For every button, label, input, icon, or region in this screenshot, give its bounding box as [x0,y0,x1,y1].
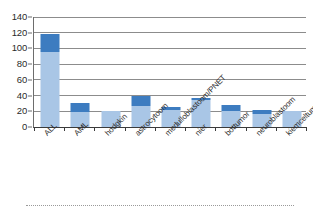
footer-dotted-rule [26,205,294,206]
bar-slot [126,17,156,127]
x-tick-mark [306,127,307,131]
y-tick-mark [28,17,32,18]
y-tick-label: 100 [12,44,27,54]
bar-slot [95,17,125,127]
y-tick-mark [28,111,32,112]
y-tick-label: 80 [17,59,27,69]
bar-segment-light [41,52,60,127]
y-tick-label: 20 [17,107,27,117]
bar-slot [65,17,95,127]
bar-segment-dark [71,103,90,112]
bar-segment-dark [41,34,60,52]
bar-chart: 020406080100120140 ALLAMLhodgkinastrocyt… [0,0,313,216]
y-tick-mark [28,48,32,49]
y-tick-label: 0 [22,122,27,132]
y-tick-mark [28,127,32,128]
y-tick-mark [28,32,32,33]
y-axis: 020406080100120140 [0,17,31,127]
y-tick-label: 40 [17,91,27,101]
bar-slot [35,17,65,127]
y-tick-label: 60 [17,75,27,85]
y-tick-label: 140 [12,12,27,22]
bar-slot [247,17,277,127]
y-tick-mark [28,79,32,80]
bar [41,34,60,127]
bar-segment-dark [131,96,150,106]
y-tick-label: 120 [12,28,27,38]
x-axis-labels: ALLAMLhodgkinastrocytoommedulloblastoom/… [34,130,306,192]
bar-group [35,17,306,127]
y-tick-mark [28,64,32,65]
y-tick-mark [28,95,32,96]
plot-area [33,17,306,128]
